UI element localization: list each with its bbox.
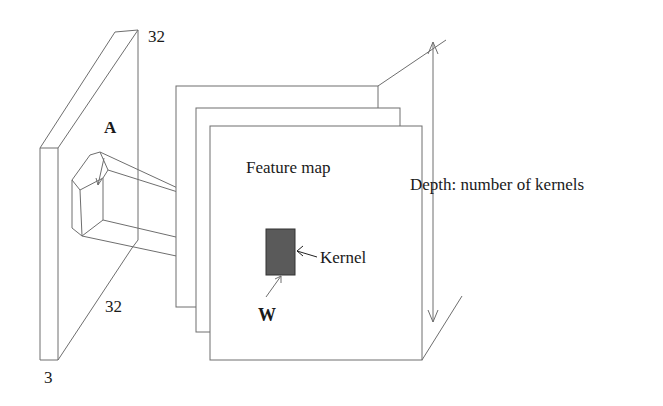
feature-map-label: Feature map — [246, 158, 331, 177]
input-width-label: 32 — [105, 297, 122, 316]
diagram-canvas: 32 A 32 3 Feature map Kernel W Depth: nu… — [0, 0, 663, 406]
receptive-field — [72, 152, 108, 236]
input-depth-label: 3 — [44, 368, 53, 387]
convolution-diagram: 32 A 32 3 Feature map Kernel W Depth: nu… — [0, 0, 663, 406]
feature-map-stack — [176, 86, 422, 360]
weight-label: W — [258, 305, 276, 325]
input-volume — [40, 30, 138, 360]
receptive-field-label: A — [104, 118, 117, 137]
kernel-label: Kernel — [320, 248, 367, 267]
kernel-block — [266, 229, 295, 275]
depth-label: Depth: number of kernels — [410, 175, 584, 194]
input-height-label: 32 — [148, 27, 165, 46]
